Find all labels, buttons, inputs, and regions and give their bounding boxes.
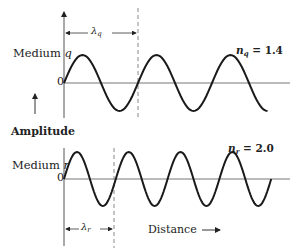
top-wavelength-label: λq — [90, 25, 103, 38]
top-zero-label: 0 — [57, 75, 64, 88]
amplitude-label: Amplitude — [11, 125, 75, 138]
bottom-wavelength-label: λr — [80, 221, 92, 234]
index-subscript: q — [244, 49, 249, 58]
index-symbol: n — [236, 44, 244, 56]
bottom-medium-symbol: r — [64, 158, 70, 172]
bottom-zero-label: 0 — [57, 171, 64, 184]
top-medium-text: Medium — [13, 46, 61, 60]
top-medium-label: Medium q — [13, 46, 72, 60]
index-subscript: r — [236, 147, 240, 156]
distance-label: Distance — [148, 223, 197, 236]
bottom-index-label: nr = 2.0 — [228, 142, 274, 156]
lambda-subscript: q — [97, 30, 101, 38]
top-index-label: nq = 1.4 — [236, 44, 283, 58]
bottom-medium-label: Medium r — [12, 158, 69, 172]
top-medium-symbol: q — [65, 46, 72, 60]
index-symbol: n — [228, 142, 236, 154]
index-value: = 2.0 — [243, 142, 274, 154]
lambda-subscript: r — [87, 226, 90, 234]
bottom-medium-text: Medium — [12, 158, 60, 172]
index-value: = 1.4 — [252, 44, 283, 56]
